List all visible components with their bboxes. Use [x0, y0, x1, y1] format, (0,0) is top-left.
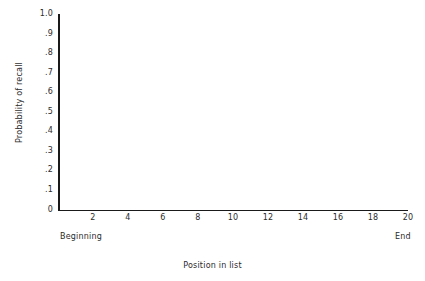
y-axis-line [58, 14, 60, 211]
x-axis-end-caption: End [395, 233, 411, 241]
y-axis-tick-label: 1.0 [0, 10, 53, 18]
y-axis-tick-label: .6 [0, 88, 53, 96]
y-axis-tick-label: .2 [0, 166, 53, 174]
plot-area [60, 14, 409, 210]
y-axis-tick-label: .1 [0, 186, 53, 194]
serial-position-chart: 1.0.9.8.7.6.5.4.3.2.10 Probability of re… [0, 0, 425, 281]
x-axis-tick-label: 16 [326, 214, 350, 222]
y-axis-tick-label: .5 [0, 108, 53, 116]
y-axis-tick-labels: 1.0.9.8.7.6.5.4.3.2.10 [0, 0, 53, 281]
y-axis-tick-label: .4 [0, 127, 53, 135]
y-axis-title: Probability of recall [15, 53, 24, 153]
x-axis-title: Position in list [0, 261, 425, 270]
x-axis-tick-label: 10 [221, 214, 245, 222]
y-axis-tick-label: 0 [0, 206, 53, 214]
y-axis-tick-label: .9 [0, 30, 53, 38]
x-axis-tick-label: 6 [151, 214, 175, 222]
x-axis-tick-label: 8 [186, 214, 210, 222]
x-axis-tick-label: 14 [291, 214, 315, 222]
y-axis-tick-label: .7 [0, 69, 53, 77]
x-axis-tick-label: 4 [116, 214, 140, 222]
x-axis-line [58, 210, 408, 212]
x-axis-tick-label: 20 [396, 214, 420, 222]
x-axis-start-caption: Beginning [60, 233, 102, 241]
y-axis-tick-label: .8 [0, 49, 53, 57]
x-axis-tick-label: 2 [81, 214, 105, 222]
x-axis-tick-label: 18 [361, 214, 385, 222]
y-axis-tick-label: .3 [0, 147, 53, 155]
x-axis-tick-label: 12 [256, 214, 280, 222]
